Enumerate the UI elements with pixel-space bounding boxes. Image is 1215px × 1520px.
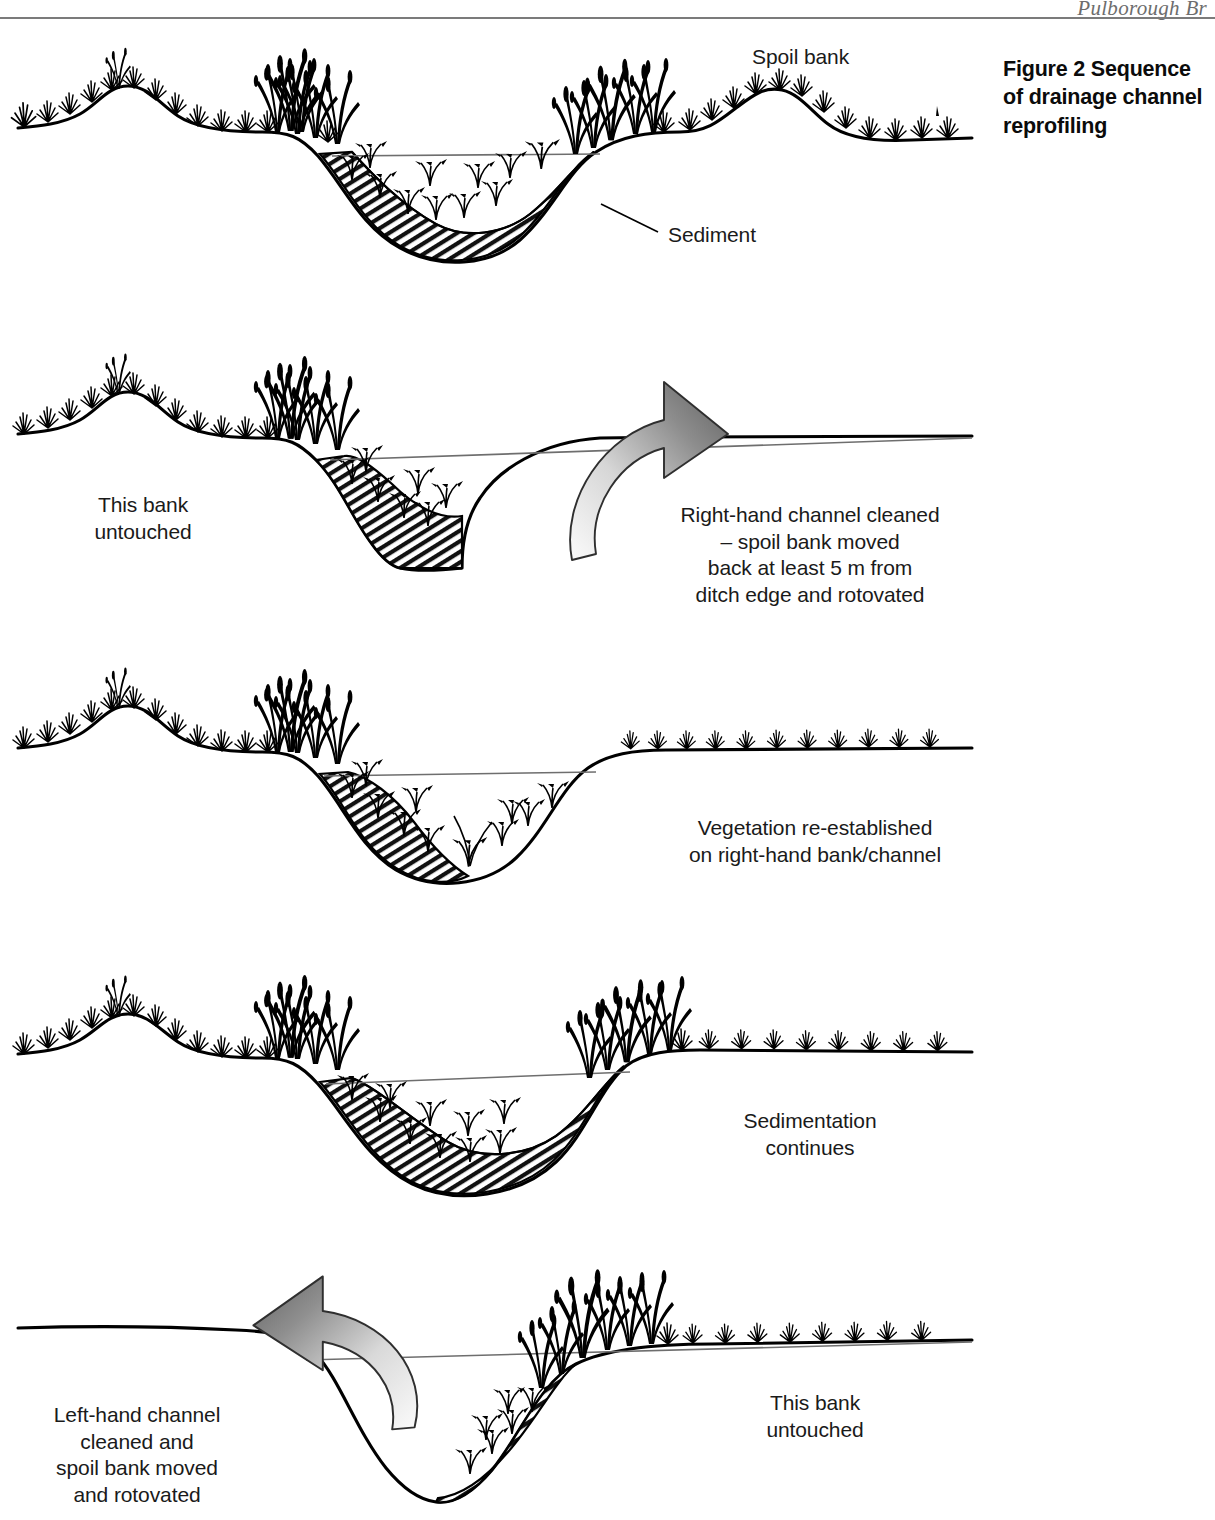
header-rule bbox=[0, 17, 1215, 19]
vegetation-recolonising-channel bbox=[452, 781, 569, 867]
label-sediment: Sediment bbox=[668, 222, 828, 249]
figure-caption: Figure 2 Sequence of drainage channel re… bbox=[1003, 55, 1213, 140]
sediment-leader-line bbox=[601, 204, 658, 232]
sediment-fill bbox=[436, 1364, 576, 1502]
sediment-fill bbox=[320, 772, 468, 882]
label-right-hand-cleaned: Right-hand channel cleaned – spoil bank … bbox=[648, 502, 972, 609]
vegetation-left-bank bbox=[13, 353, 256, 438]
label-this-bank-untouched-left: This bank untouched bbox=[58, 492, 228, 545]
vegetation-left-bank bbox=[12, 48, 257, 132]
label-spoil-bank: Spoil bank bbox=[752, 44, 912, 71]
panel-4-sedimentation-continues bbox=[0, 948, 990, 1208]
vegetation-left-bank bbox=[13, 976, 256, 1059]
label-left-hand-cleaned: Left-hand channel cleaned and spoil bank… bbox=[22, 1402, 252, 1509]
vegetation-right-bank-new bbox=[621, 729, 938, 749]
label-this-bank-untouched-right: This bank untouched bbox=[720, 1390, 910, 1443]
sediment-fill bbox=[316, 456, 462, 568]
water-level-line bbox=[306, 1342, 972, 1360]
label-sedimentation-continues: Sedimentation continues bbox=[660, 1108, 960, 1161]
panel-4-svg bbox=[0, 948, 990, 1208]
vegetation-ditch-emergent bbox=[254, 48, 560, 220]
figure-page: Pulborough Br Figure 2 Sequence of drain… bbox=[0, 0, 1215, 1520]
vegetation-right-bank bbox=[699, 1030, 947, 1051]
move-left-arrow bbox=[253, 1276, 417, 1429]
vegetation-right-ditch-edge bbox=[552, 58, 676, 154]
water-level-line bbox=[326, 1072, 630, 1084]
vegetation-left-bank bbox=[13, 668, 256, 753]
vegetation-spoil-bank bbox=[679, 69, 958, 140]
sediment-fill bbox=[320, 152, 594, 260]
label-vegetation-re-established: Vegetation re-established on right-hand … bbox=[650, 815, 980, 868]
